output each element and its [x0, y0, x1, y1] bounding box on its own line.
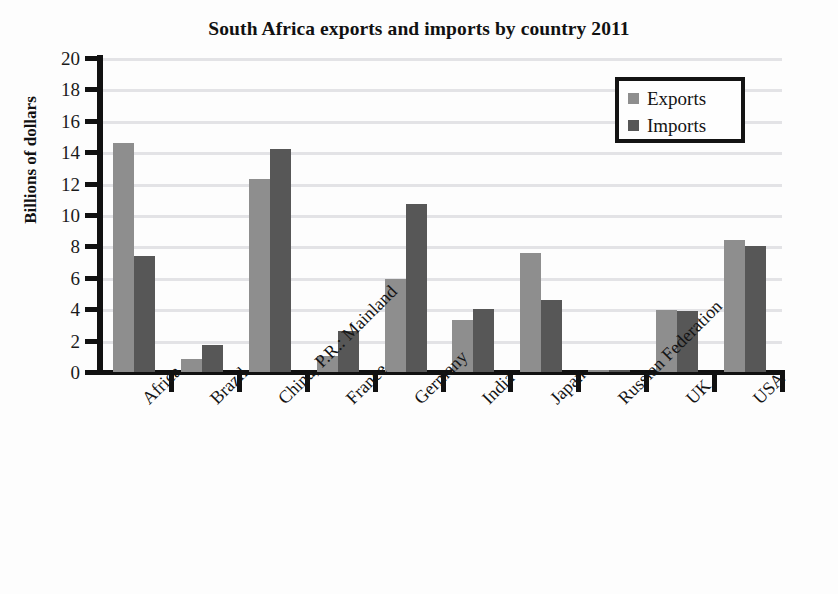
y-axis-tick-label: 8 [22, 237, 80, 256]
y-axis-tick-label: 4 [22, 300, 80, 319]
y-axis-tick-label: 0 [22, 363, 80, 382]
bar-group [239, 58, 307, 372]
legend-swatch-imports [628, 120, 639, 131]
y-axis-tick-label: 18 [22, 80, 80, 99]
bar-imports [609, 370, 630, 372]
legend-label-imports: Imports [647, 116, 706, 135]
bar-exports [724, 240, 745, 372]
bar-exports [113, 143, 134, 372]
bar-group [443, 58, 511, 372]
legend-label-exports: Exports [647, 89, 706, 108]
bar-imports [134, 256, 155, 372]
y-axis-tick-label: 12 [22, 175, 80, 194]
y-axis-tick-label: 14 [22, 143, 80, 162]
legend-swatch-exports [628, 93, 639, 104]
y-axis-tick-label: 16 [22, 112, 80, 131]
bar-imports [541, 300, 562, 372]
y-axis-tick-label: 10 [22, 206, 80, 225]
legend-item-imports: Imports [628, 116, 706, 135]
bar-imports [202, 345, 223, 372]
bar-imports [270, 149, 291, 372]
bar-group [171, 58, 239, 372]
bar-imports [745, 246, 766, 372]
bar-imports [473, 309, 494, 372]
y-axis-tick-label: 20 [22, 49, 80, 68]
bar-group [375, 58, 443, 372]
bar-exports [588, 370, 609, 372]
chart-legend: Exports Imports [615, 77, 745, 143]
legend-item-exports: Exports [628, 89, 706, 108]
bar-group [103, 58, 171, 372]
bar-exports [181, 359, 202, 372]
bar-group [510, 58, 578, 372]
y-axis-tick-label: 2 [22, 332, 80, 351]
chart-figure: South Africa exports and imports by coun… [0, 0, 838, 594]
bar-exports [520, 253, 541, 372]
y-axis-tick-label: 6 [22, 269, 80, 288]
chart-title: South Africa exports and imports by coun… [0, 18, 838, 40]
bar-imports [406, 204, 427, 372]
bar-exports [249, 179, 270, 372]
x-axis-label: UK [682, 376, 715, 409]
